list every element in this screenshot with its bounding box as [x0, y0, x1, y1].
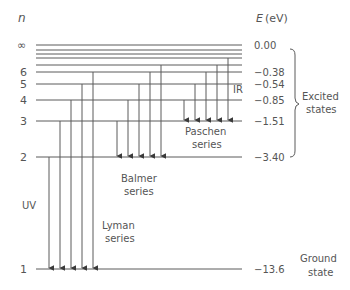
- lyman-series-transitions: [49, 72, 93, 268]
- paschen-series-transitions: [184, 58, 228, 120]
- uv-label: UV: [22, 200, 36, 211]
- n-axis-label: n: [18, 11, 26, 25]
- excited-states-label: Excited: [302, 91, 339, 102]
- level-energy-label: −0.54: [254, 79, 285, 90]
- energy-level-diagram: n E(eV) 1−13.62−3.403−1.514−0.855−0.546−…: [0, 0, 350, 290]
- level-energy-label: −3.40: [254, 152, 285, 163]
- level-n-label: ∞: [17, 39, 26, 52]
- energy-levels: 1−13.62−3.403−1.514−0.855−0.546−0.38∞0.0…: [17, 39, 285, 276]
- level-energy-label: −13.6: [254, 264, 285, 275]
- level-energy-label: −1.51: [254, 116, 285, 127]
- balmer-series-label-2: series: [124, 186, 154, 197]
- ground-state-label: Ground: [300, 253, 337, 264]
- level-energy-label: 0.00: [254, 40, 276, 51]
- balmer-series-transitions: [117, 65, 161, 156]
- level-n-label: 5: [20, 78, 27, 91]
- ir-label: IR: [233, 84, 243, 95]
- level-n-label: 4: [20, 94, 27, 107]
- paschen-series-label-2: series: [192, 139, 222, 150]
- excited-states-brace: [290, 49, 299, 157]
- level-n-label: 2: [20, 151, 27, 164]
- level-5: 5−0.54: [20, 78, 285, 91]
- energy-axis-label: E(eV): [256, 12, 288, 25]
- paschen-series-label: Paschen: [185, 126, 226, 137]
- level-n-label: 1: [20, 263, 27, 276]
- level-n-label: 6: [20, 66, 27, 79]
- level-energy-label: −0.38: [254, 67, 285, 78]
- level-6: 6−0.38: [20, 66, 285, 79]
- lyman-series-label-2: series: [105, 233, 135, 244]
- level-4: 4−0.85: [20, 94, 285, 107]
- balmer-series-label: Balmer: [121, 173, 158, 184]
- level-n-label: 3: [20, 115, 27, 128]
- level-energy-label: −0.85: [254, 95, 285, 106]
- ground-state-label-2: state: [308, 267, 333, 278]
- excited-states-label-2: states: [306, 104, 337, 115]
- lyman-series-label: Lyman: [102, 220, 135, 231]
- transitions: [49, 58, 228, 268]
